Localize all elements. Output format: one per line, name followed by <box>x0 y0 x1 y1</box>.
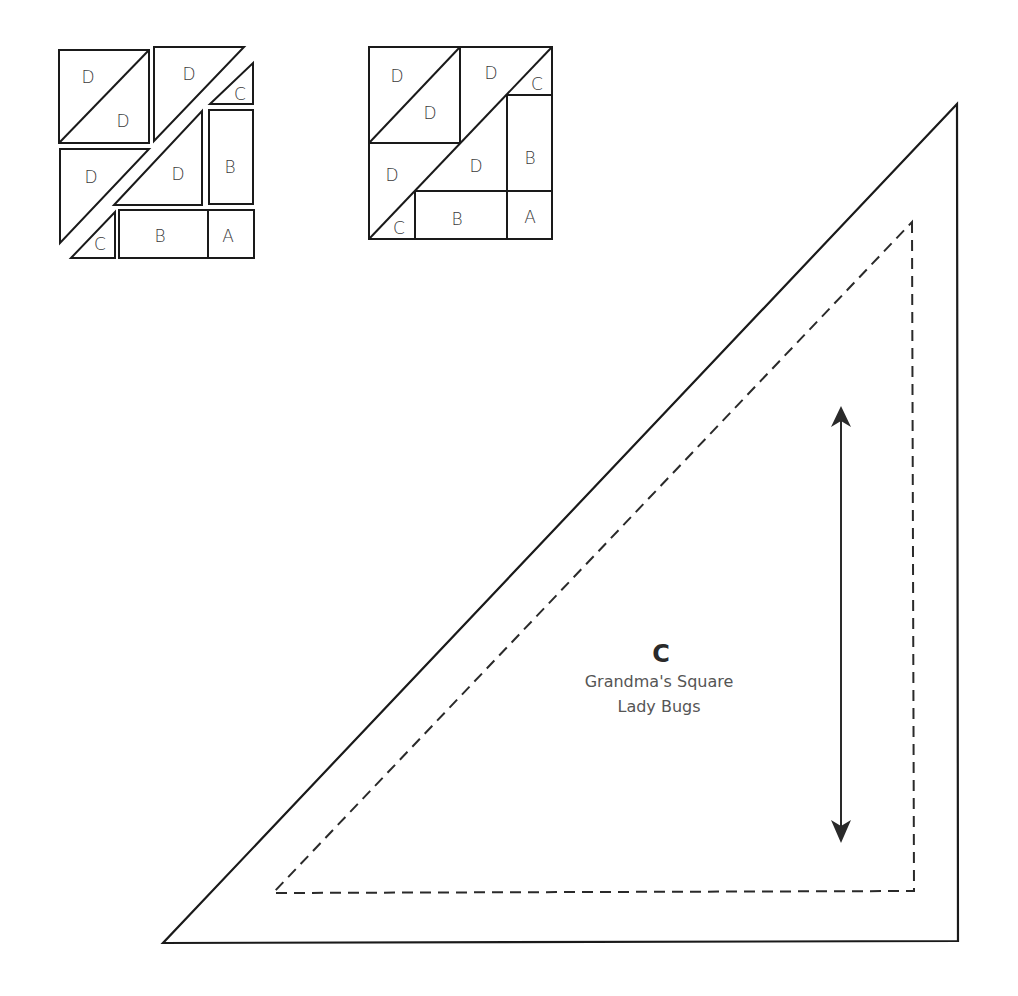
piece-c-bottom <box>71 212 115 258</box>
piece-d-left-triangle <box>60 149 149 243</box>
assembled-block-labels: D D D C B D D C B A <box>385 63 542 238</box>
label-b2: B <box>154 226 165 246</box>
label-a: A <box>524 207 536 227</box>
label-d2: D <box>423 103 436 123</box>
label-d3: D <box>484 63 497 83</box>
piece-d-top-triangle <box>154 47 244 141</box>
label-b1: B <box>224 157 235 177</box>
label-d1: D <box>390 66 403 86</box>
label-c1: C <box>234 84 246 104</box>
label-b1: B <box>524 148 535 168</box>
piece-c-top <box>210 63 253 104</box>
label-d1: D <box>81 67 94 87</box>
seam-line <box>369 47 460 143</box>
piece-d-square-diagonal <box>59 50 149 143</box>
grain-line-arrow-icon <box>831 406 851 843</box>
label-b2: B <box>451 209 462 229</box>
piece-letter: C <box>652 640 670 668</box>
label-c1: C <box>531 74 543 94</box>
label-d3: D <box>182 64 195 84</box>
block-name: Lady Bugs <box>617 697 700 716</box>
label-a: A <box>222 226 234 246</box>
label-d4: D <box>84 167 97 187</box>
label-d2: D <box>116 111 129 131</box>
label-d5: D <box>469 156 482 176</box>
cutting-line <box>163 104 958 943</box>
pattern-page: D D D C B D D C B A D D D C B D D C B A <box>0 0 1018 996</box>
seam-allowance-dashed-line <box>273 222 914 893</box>
template-piece-c: C Grandma's Square Lady Bugs <box>163 104 958 943</box>
label-c2: C <box>393 218 405 238</box>
label-c2: C <box>94 234 106 254</box>
label-d4: D <box>385 165 398 185</box>
label-d5: D <box>171 164 184 184</box>
pattern-name: Grandma's Square <box>585 672 734 691</box>
